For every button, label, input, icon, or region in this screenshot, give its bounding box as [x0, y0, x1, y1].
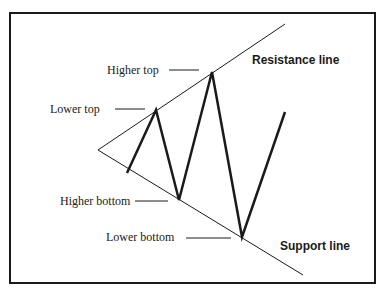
resistance-line	[98, 24, 285, 150]
lower-top-label: Lower top	[50, 102, 100, 116]
pattern-diagram: Higher top Lower top Higher bottom Lower…	[0, 0, 383, 296]
lower-bottom-label: Lower bottom	[106, 230, 175, 244]
higher-top-label: Higher top	[107, 63, 159, 77]
support-line-label: Support line	[280, 239, 350, 253]
resistance-line-label: Resistance line	[252, 53, 340, 67]
price-zigzag	[127, 72, 285, 237]
higher-bottom-label: Higher bottom	[60, 194, 131, 208]
